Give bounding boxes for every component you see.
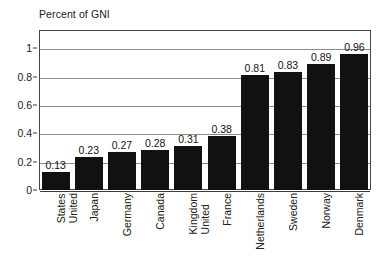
y-axis-tick-label: 0.2 [17, 156, 32, 168]
bar-value-label: 0.83 [278, 60, 298, 71]
bar-slot[interactable]: 0.83 [271, 30, 304, 190]
x-axis-category-label: Canada [139, 191, 172, 267]
y-axis-tick-mark [33, 105, 37, 106]
bar[interactable] [307, 64, 335, 190]
x-axis-category-line: States [56, 194, 68, 225]
bar-value-label: 0.13 [45, 160, 65, 171]
bar-value-label: 0.31 [178, 134, 198, 145]
bar-series: 0.130.230.270.280.310.380.810.830.890.96 [39, 30, 371, 190]
chart-title: Percent of GNI [39, 8, 110, 20]
bar-value-label: 0.38 [211, 124, 231, 135]
x-axis-category-label: Japan [72, 191, 105, 267]
bar-slot[interactable]: 0.28 [139, 30, 172, 190]
y-axis-tick-label: 0.6 [17, 99, 32, 111]
y-axis-tick-mark [33, 76, 37, 77]
bar[interactable] [241, 75, 269, 190]
x-axis-category-line: Germany [122, 193, 134, 237]
y-axis-tick-mark [33, 161, 37, 162]
y-axis-tick-label: 0.8 [17, 71, 32, 83]
bar-value-label: 0.23 [79, 145, 99, 156]
bar-slot[interactable]: 0.38 [205, 30, 238, 190]
y-axis-tick-label: 0.4 [17, 127, 32, 139]
x-axis-category-line: Norway [321, 193, 333, 230]
x-axis-category-label: Germany [105, 191, 138, 267]
bar-slot[interactable]: 0.13 [39, 30, 72, 190]
bar-value-label: 0.27 [112, 140, 132, 151]
y-axis-tick-mark [33, 133, 37, 134]
bar-chart: Percent of GNI 00.20.40.60.81 0.130.230.… [0, 0, 389, 267]
x-axis-category-line: Netherlands [255, 193, 267, 251]
x-axis-category-label: UnitedStates [39, 191, 72, 267]
bar-slot[interactable]: 0.27 [105, 30, 138, 190]
x-axis-category-line: Denmark [354, 193, 366, 237]
bar-slot[interactable]: 0.81 [238, 30, 271, 190]
bar-value-label: 0.28 [145, 138, 165, 149]
bar[interactable] [174, 146, 202, 190]
bar[interactable] [42, 172, 70, 190]
x-axis-category-label: France [205, 191, 238, 267]
bar[interactable] [75, 157, 103, 190]
x-axis-category-line: Canada [155, 193, 167, 231]
y-axis-tick-mark [33, 48, 37, 49]
x-axis-category-line: Japan [89, 193, 101, 223]
bar[interactable] [274, 72, 302, 190]
bar-slot[interactable]: 0.31 [172, 30, 205, 190]
bar-value-label: 0.81 [245, 63, 265, 74]
bar[interactable] [141, 150, 169, 190]
y-axis-tick-label: 1 [26, 42, 32, 54]
bar[interactable] [108, 152, 136, 190]
x-axis-category-label: UnitedKingdom [172, 191, 205, 267]
x-axis-category-label: Sweden [271, 191, 304, 267]
bar-slot[interactable]: 0.96 [338, 30, 371, 190]
bar-slot[interactable]: 0.89 [305, 30, 338, 190]
x-axis-category-label: Denmark [338, 191, 371, 267]
x-axis-category-line: France [222, 193, 234, 227]
y-axis-tick-mark [33, 190, 37, 191]
bar-slot[interactable]: 0.23 [72, 30, 105, 190]
x-axis-category-line: Sweden [288, 193, 300, 232]
x-axis-category-label: Norway [305, 191, 338, 267]
bar-value-label: 0.96 [344, 42, 364, 53]
x-axis-labels: UnitedStatesJapanGermanyCanadaUnitedKing… [39, 191, 371, 267]
x-axis-category-label: Netherlands [238, 191, 271, 267]
bar[interactable] [208, 136, 236, 190]
bar[interactable] [340, 54, 368, 190]
bar-value-label: 0.89 [311, 52, 331, 63]
y-axis: 00.20.40.60.81 [0, 30, 37, 190]
y-axis-tick-label: 0 [26, 184, 32, 196]
